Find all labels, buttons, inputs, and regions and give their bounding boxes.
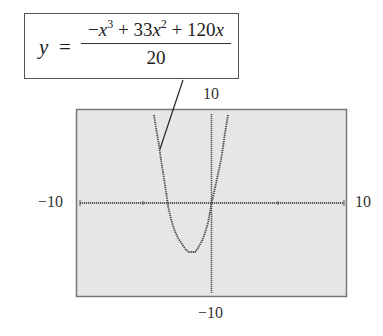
- ymin-label: −10: [198, 304, 223, 322]
- ymax-label: 10: [203, 85, 219, 103]
- graph-figure: [0, 0, 383, 336]
- xmin-label: −10: [38, 193, 63, 211]
- xmax-label: 10: [355, 193, 371, 211]
